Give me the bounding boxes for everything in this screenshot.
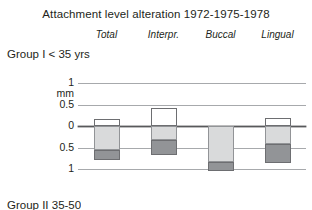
- plot-area: [78, 83, 306, 169]
- group-label: Group I < 35 yrs: [7, 48, 90, 60]
- bar-segment-loss-dark-buccal: [208, 162, 234, 171]
- y-axis-tick-value: 0: [68, 119, 74, 131]
- bar-group-total: [78, 83, 135, 169]
- column-header-row: TotalInterpr.BuccalLingual: [78, 29, 306, 45]
- bar-group-buccal: [192, 83, 249, 169]
- y-axis-tick-1: 0.5: [30, 99, 74, 110]
- y-axis-tick-2: 0: [30, 120, 74, 131]
- y-axis-tick-value: 1: [68, 162, 74, 174]
- y-axis-tick-value: 0.5: [59, 141, 74, 153]
- bar-segment-loss-dark-total: [94, 150, 120, 160]
- column-header-buccal: Buccal: [192, 29, 249, 40]
- bar-segment-loss-light-lingual: [265, 126, 291, 144]
- next-group-label: Group II 35-50: [7, 199, 81, 210]
- column-header-total: Total: [78, 29, 135, 40]
- bar-segment-loss-light-total: [94, 126, 120, 150]
- y-axis: 1mm0.500.51: [30, 70, 74, 175]
- bar-group-lingual: [249, 83, 306, 169]
- column-header-interpr: Interpr.: [135, 29, 192, 40]
- bar-segment-loss-light-interpr: [151, 126, 177, 140]
- y-axis-tick-4: 1: [30, 163, 74, 174]
- column-header-lingual: Lingual: [249, 29, 306, 40]
- y-axis-tick-value: 0.5: [59, 98, 74, 110]
- bar-group-interpr: [135, 83, 192, 169]
- y-axis-tick-3: 0.5: [30, 142, 74, 153]
- gridline-4: [78, 169, 306, 170]
- bar-segment-loss-light-buccal: [208, 126, 234, 162]
- y-axis-tick-0: 1mm: [30, 77, 74, 99]
- bar-segment-loss-dark-interpr: [151, 140, 177, 155]
- chart-title: Attachment level alteration 1972-1975-19…: [0, 8, 312, 20]
- bar-segment-loss-dark-lingual: [265, 144, 291, 162]
- bar-segment-gain-interpr: [151, 108, 177, 126]
- bar-segment-gain-total: [94, 119, 120, 126]
- bar-segment-gain-lingual: [265, 118, 291, 126]
